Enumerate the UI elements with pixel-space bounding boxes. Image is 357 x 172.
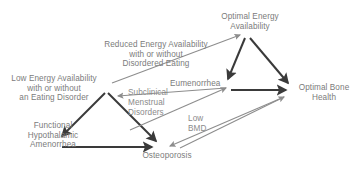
node-label-osteoporosis: Osteoporosis xyxy=(128,151,206,161)
node-label-optimal-energy-availability: Optimal Energy Availability xyxy=(208,12,292,31)
right-triangle-group xyxy=(228,38,288,90)
node-label-subclinical-menstrual-disorders: Subclinical Menstrual Disorders xyxy=(128,88,190,117)
node-label-optimal-bone-health: Optimal Bone Health xyxy=(292,83,356,102)
node-label-low-bmd: Low BMD xyxy=(188,114,222,134)
edge-optimalEA-to-optimalbone xyxy=(250,38,288,83)
diagram-canvas: Low Energy Availability with or without … xyxy=(0,0,357,172)
node-label-reduced-energy-availability: Reduced Energy Availability with or with… xyxy=(96,40,216,69)
node-label-low-energy-availability: Low Energy Availability with or without … xyxy=(2,74,106,103)
edge-optimalEA-to-eumenorrhea xyxy=(228,38,245,79)
node-label-functional-hypothalamic-amenorrhea: Functional Hypothalamic Amenorrhea xyxy=(8,121,98,150)
